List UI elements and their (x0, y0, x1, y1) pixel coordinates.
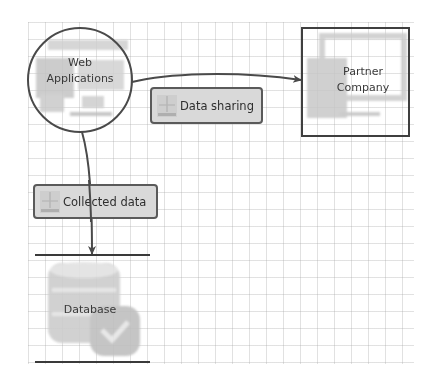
entity-label-line1: Partner (318, 64, 408, 80)
process-label-line2: Applications (30, 71, 130, 87)
entity-label-line2: Company (318, 80, 408, 96)
data-flow-icon (156, 93, 178, 119)
flow-arrow-data-sharing[interactable] (132, 74, 301, 82)
data-flow-icon (39, 189, 61, 215)
flow-label-text: Data sharing (180, 99, 254, 113)
data-store-label-text: Database (50, 302, 130, 318)
entity-label-partner-company: Partner Company (318, 64, 408, 96)
diagram-canvas: Web Applications Partner Company Databas… (0, 0, 427, 385)
process-label-web-applications: Web Applications (30, 55, 130, 87)
data-store-label-database: Database (50, 302, 130, 318)
flow-label-collected-data[interactable]: Collected data (33, 184, 158, 219)
flow-label-text: Collected data (63, 195, 146, 209)
process-label-line1: Web (30, 55, 130, 71)
flow-label-data-sharing[interactable]: Data sharing (150, 87, 263, 124)
